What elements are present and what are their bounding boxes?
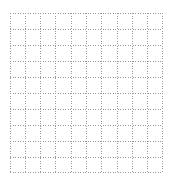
canvas: [0, 0, 172, 184]
dotted-grid: [10, 13, 163, 173]
grid-lines: [10, 13, 163, 173]
